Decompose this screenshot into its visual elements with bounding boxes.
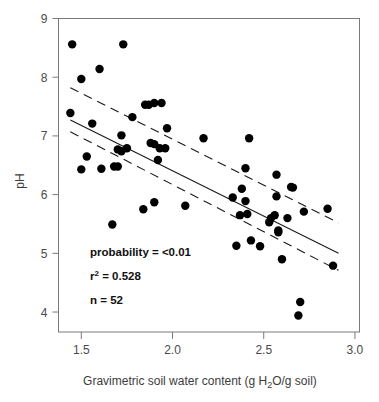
data-point: [68, 40, 76, 48]
data-point: [108, 220, 116, 228]
scatter-plot: 456789 1.52.02.53.0 pH Gravimetric soil …: [0, 0, 379, 402]
y-tick-label: 6: [41, 188, 48, 202]
data-point: [232, 241, 240, 249]
y-tick-label: 9: [41, 12, 48, 26]
data-point: [161, 144, 169, 152]
data-point: [154, 156, 162, 164]
data-point: [274, 228, 282, 236]
data-point: [278, 255, 286, 263]
data-point: [247, 236, 255, 244]
data-point: [157, 99, 165, 107]
data-point: [294, 311, 302, 319]
data-point: [265, 218, 273, 226]
data-point: [243, 210, 251, 218]
data-point: [272, 170, 280, 178]
data-point: [296, 298, 304, 306]
data-point: [88, 119, 96, 127]
data-point: [150, 198, 158, 206]
y-tick-label: 7: [41, 129, 48, 143]
data-point: [117, 131, 125, 139]
data-point: [139, 205, 147, 213]
data-point: [272, 192, 280, 200]
x-tick-label: 3.0: [347, 343, 364, 357]
x-axis-title-before: Gravimetric soil water content (g H: [83, 374, 267, 388]
data-point: [83, 152, 91, 160]
data-point: [77, 75, 85, 83]
x-tick-label: 1.5: [73, 343, 90, 357]
data-point: [245, 134, 253, 142]
chart-container: 456789 1.52.02.53.0 pH Gravimetric soil …: [0, 0, 379, 402]
data-point: [236, 211, 244, 219]
data-point: [163, 124, 171, 132]
data-point: [329, 261, 337, 269]
data-point: [323, 205, 331, 213]
y-tick-label: 8: [41, 71, 48, 85]
chart-background: [0, 0, 379, 402]
data-point: [150, 99, 158, 107]
data-point: [181, 202, 189, 210]
y-axis-title: pH: [13, 173, 27, 188]
x-axis-title: Gravimetric soil water content (g H2O/g …: [83, 374, 317, 390]
x-tick-label: 2.5: [255, 343, 272, 357]
data-point: [114, 162, 122, 170]
y-tick-label: 5: [41, 247, 48, 261]
data-point: [95, 65, 103, 73]
data-point: [119, 40, 127, 48]
data-point: [238, 185, 246, 193]
y-tick-label: 4: [41, 306, 48, 320]
data-point: [289, 183, 297, 191]
data-point: [241, 164, 249, 172]
data-point: [283, 214, 291, 222]
data-point: [66, 109, 74, 117]
data-point: [123, 144, 131, 152]
data-point: [256, 242, 264, 250]
data-point: [300, 207, 308, 215]
x-axis-title-after: O/g soil): [272, 374, 317, 388]
annotation-probability: probability = <0.01: [90, 246, 192, 258]
annotation-sample-size: n = 52: [90, 294, 123, 306]
data-point: [241, 197, 249, 205]
x-tick-label: 2.0: [164, 343, 181, 357]
data-point: [77, 165, 85, 173]
data-point: [199, 134, 207, 142]
svg-text:Gravimetric soil water content: Gravimetric soil water content (g H2O/g …: [83, 374, 317, 390]
data-point: [229, 193, 237, 201]
data-point: [128, 113, 136, 121]
data-point: [97, 165, 105, 173]
